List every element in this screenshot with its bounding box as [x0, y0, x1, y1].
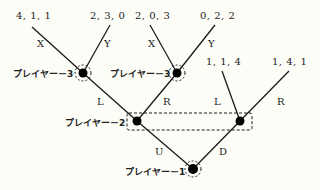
action-label-p1-D: D — [219, 146, 227, 157]
payoff-URY: 0, 2, 2 — [200, 10, 235, 21]
payoff-ULX: 4, 1, 1 — [16, 10, 51, 21]
edge-UR — [137, 73, 177, 121]
player3-right-label: プレイヤー－3 — [110, 67, 170, 80]
payoff-ULY: 2, 3, 0 — [90, 10, 125, 21]
action-label-p2-left-R: R — [163, 96, 171, 107]
edge-D — [193, 121, 240, 169]
payoff-URX: 2, 0, 3 — [135, 10, 170, 21]
action-label-p2-right-L: L — [214, 96, 221, 107]
edge-U — [137, 121, 193, 169]
action-label-p3a-X: X — [37, 38, 44, 49]
node-player1 — [188, 164, 198, 174]
game-tree-lines — [0, 0, 320, 190]
action-label-p3a-Y: Y — [104, 38, 111, 49]
player3-left-label: プレイヤー－3 — [13, 67, 73, 80]
edge-UL — [83, 73, 137, 121]
action-label-p2-left-L: L — [97, 96, 104, 107]
node-player3-left — [79, 69, 88, 78]
action-label-p2-right-R: R — [277, 96, 285, 107]
player1-label: プレイヤー－1 — [125, 165, 185, 178]
node-player3-right — [173, 69, 182, 78]
action-label-p3b-Y: Y — [208, 38, 215, 49]
action-label-p3b-X: X — [148, 38, 155, 49]
node-player2-left — [133, 117, 142, 126]
action-label-p1-U: U — [155, 146, 163, 157]
payoff-DL: 1, 1, 4 — [206, 56, 241, 67]
payoff-DR: 1, 4, 1 — [272, 56, 307, 67]
player2-label: プレイヤー－2 — [65, 116, 125, 129]
node-player2-right — [236, 117, 245, 126]
